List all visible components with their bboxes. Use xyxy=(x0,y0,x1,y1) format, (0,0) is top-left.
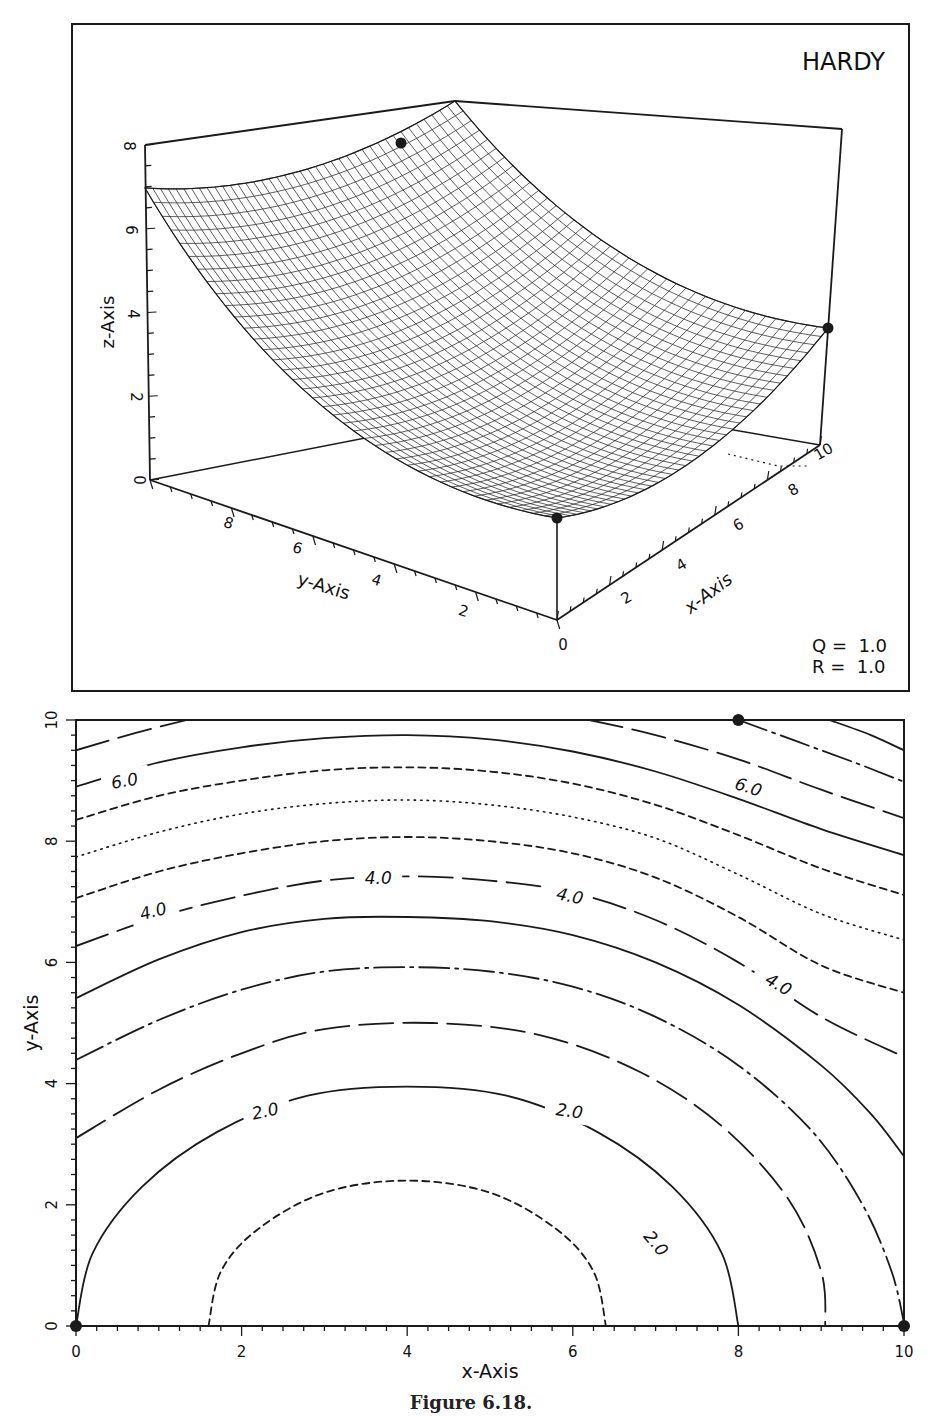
x-axis-label: x-Axis xyxy=(461,1360,518,1382)
contour-line-7-5 xyxy=(829,720,904,750)
contour-plot: 024681002468102.02.02.04.04.04.04.06.06.… xyxy=(43,710,914,1361)
data-point xyxy=(898,1320,910,1332)
contour-line-4-5 xyxy=(76,837,904,993)
contour-level-label: 4.0 xyxy=(365,868,392,888)
contour-line-4 xyxy=(76,876,904,1057)
contour-line-6 xyxy=(76,735,904,855)
z-tick-3d: 6 xyxy=(122,225,140,235)
contour-level-label: 2.0 xyxy=(640,1227,673,1261)
data-point xyxy=(70,1320,82,1332)
y-tick-label: 4 xyxy=(43,1079,61,1089)
contour-line-6-5 xyxy=(76,720,187,750)
contour-level-label: 4.0 xyxy=(555,883,586,908)
y-axis-label-3d: y-Axis xyxy=(295,568,353,604)
z-tick-3d: 8 xyxy=(120,141,138,151)
y-tick-3d: 8 xyxy=(221,513,235,533)
figure-caption: Figure 6.18. xyxy=(0,1392,942,1413)
data-point xyxy=(552,513,563,524)
contour-line-5 xyxy=(76,800,904,940)
contour-level-label: 4.0 xyxy=(138,898,169,924)
contour-level-label: 6.0 xyxy=(110,768,140,792)
contour-line-7 xyxy=(738,720,904,782)
contour-line-6-5 xyxy=(589,720,904,818)
x-tick-3d: 2 xyxy=(618,587,635,607)
contour-line-1-5 xyxy=(208,1181,605,1326)
contour-level-label: 4.0 xyxy=(762,969,795,1000)
contour-level-label: 2.0 xyxy=(250,1098,281,1123)
contour-level-label: 6.0 xyxy=(733,773,765,800)
y-tick-label: 10 xyxy=(43,710,61,729)
y-tick-3d: 2 xyxy=(456,601,470,621)
x-tick-3d: 0 xyxy=(558,636,568,654)
y-tick-label: 0 xyxy=(43,1321,61,1331)
z-tick-3d: 4 xyxy=(124,309,142,319)
x-axis-label-3d: x-Axis xyxy=(679,568,736,618)
x-tick-label: 2 xyxy=(237,1343,247,1361)
y-tick-label: 6 xyxy=(43,958,61,968)
z-axis-label: z-Axis xyxy=(97,296,118,349)
contour-line-3-5 xyxy=(76,917,904,1157)
contour-frame xyxy=(76,720,904,1326)
y-tick-3d: 4 xyxy=(369,570,383,590)
x-tick-label: 4 xyxy=(402,1343,412,1361)
surface-plot: 0246810246802468 xyxy=(120,101,842,654)
x-tick-3d: 10 xyxy=(811,439,837,464)
data-point xyxy=(396,138,407,149)
contour-level-label: 2.0 xyxy=(555,1099,585,1123)
r-parameter: R = 1.0 xyxy=(812,656,885,677)
contour-line-3 xyxy=(76,967,904,1323)
contour-line-2-5 xyxy=(76,1023,825,1326)
y-tick-label: 8 xyxy=(43,836,61,846)
x-tick-label: 6 xyxy=(568,1343,578,1361)
z-tick-3d: 2 xyxy=(127,392,145,402)
contour-line-5-5 xyxy=(76,767,904,895)
q-parameter: Q = 1.0 xyxy=(812,635,887,656)
x-tick-label: 8 xyxy=(734,1343,744,1361)
data-point xyxy=(823,323,834,334)
x-tick-3d: 8 xyxy=(785,479,802,499)
x-tick-3d: 6 xyxy=(730,514,747,534)
x-tick-label: 0 xyxy=(71,1343,81,1361)
y-tick-label: 2 xyxy=(43,1200,61,1210)
plot-title: HARDY xyxy=(802,48,885,76)
data-point xyxy=(732,714,744,726)
x-tick-label: 10 xyxy=(894,1343,913,1361)
y-axis-label: y-Axis xyxy=(20,995,42,1052)
x-tick-3d: 4 xyxy=(673,554,690,574)
figure: 0246810246802468 HARDY Q = 1.0 R = 1.0 z… xyxy=(0,0,942,1426)
y-tick-3d: 6 xyxy=(290,538,304,558)
contour-line-2 xyxy=(76,1087,738,1326)
z-tick-3d: 0 xyxy=(130,475,148,485)
